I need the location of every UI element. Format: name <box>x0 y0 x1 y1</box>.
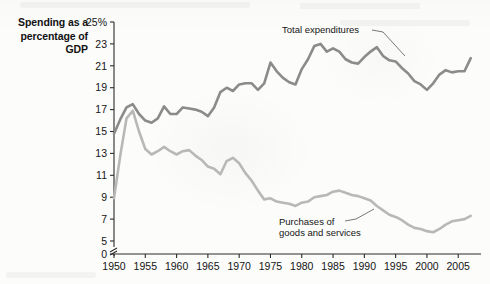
x-tick-label: 1970 <box>227 260 251 272</box>
x-axis-ticks: 1950195519601965197019751980198519901995… <box>102 254 470 272</box>
series-line-total-expenditures <box>114 44 471 134</box>
chart-page: Spending as a percentage of GDP 25%23211… <box>0 0 490 284</box>
y-axis-ticks: 25%232119171513119750 <box>86 16 114 260</box>
x-tick-label: 1985 <box>321 260 345 272</box>
y-tick-label: 13 <box>95 147 107 159</box>
line-chart: 25%2321191715131197501950195519601965197… <box>0 0 490 284</box>
y-tick-label: 15 <box>95 125 107 137</box>
series-line-purchases <box>114 111 471 233</box>
y-tick-label: 17 <box>95 103 107 115</box>
x-tick-label: 1965 <box>196 260 220 272</box>
leader-line-purchases <box>345 209 374 221</box>
x-tick-label: 1955 <box>134 260 158 272</box>
x-tick-label: 1990 <box>353 260 377 272</box>
x-tick-label: 1980 <box>290 260 314 272</box>
series-group <box>114 44 471 232</box>
annotation-purchases-line2: goods and services <box>279 227 361 238</box>
x-tick-label: 1995 <box>384 260 408 272</box>
annotation-total-expenditures: Total expenditures <box>282 24 359 35</box>
x-tick-label: 1960 <box>165 260 189 272</box>
y-tick-label: 19 <box>95 81 107 93</box>
y-tick-label: 11 <box>96 169 107 181</box>
leader-line-total-expenditures <box>372 30 405 56</box>
x-tick-label: 1950 <box>102 260 126 272</box>
x-tick-label: 1975 <box>259 260 283 272</box>
y-tick-label: 9 <box>101 191 107 203</box>
y-tick-label: 25% <box>86 16 107 28</box>
y-tick-label: 21 <box>95 60 107 72</box>
annotation-purchases-line1: Purchases of <box>279 216 335 227</box>
x-tick-label: 2000 <box>415 260 439 272</box>
y-tick-label: 0 <box>101 248 107 260</box>
y-tick-label: 7 <box>101 213 107 225</box>
x-tick-label: 2005 <box>447 260 471 272</box>
y-tick-label: 5 <box>101 235 107 247</box>
y-tick-label: 23 <box>95 38 107 50</box>
